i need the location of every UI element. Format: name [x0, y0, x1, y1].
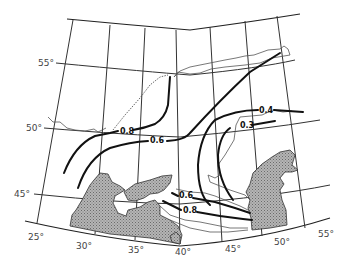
lon-label-35: 35° [128, 245, 144, 255]
isoline-0.3-b [252, 121, 275, 125]
isoline-label: 0.6 [179, 191, 194, 200]
map-canvas: 0.8 0.6 0.4 0.3 0.6 0.8 55° 50° 45° 25° … [0, 0, 348, 265]
lon-label-55: 55° [318, 229, 334, 239]
isoline-label: 0.8 [183, 206, 198, 215]
map-container: 0.8 0.6 0.4 0.3 0.6 0.8 55° 50° 45° 25° … [0, 0, 348, 265]
isoline-label: 0.6 [150, 136, 165, 145]
isoline-label: 0.3 [240, 121, 254, 130]
isoline-0.8-nw-b [133, 77, 170, 130]
isoline-0.6-s [172, 193, 178, 196]
lon-label-25: 25° [28, 232, 44, 242]
lon-label-45: 45° [225, 244, 241, 254]
lon-label-50: 50° [274, 237, 290, 247]
coast-caucasus-2 [170, 220, 248, 232]
lon-label-40: 40° [175, 247, 191, 257]
lat-label-45: 45° [14, 189, 30, 199]
isoline-0.8-s-b [197, 212, 252, 220]
map-top-edge [67, 14, 300, 30]
isoline-label: 0.4 [259, 106, 274, 115]
isoline-0.8-nw [64, 131, 118, 173]
caspian-sea [246, 150, 298, 230]
coastline-north [48, 117, 106, 132]
lon-label-30: 30° [76, 241, 92, 251]
lat-label-50: 50° [26, 123, 42, 133]
isoline-label: 0.8 [120, 127, 135, 136]
isoline-0.3 [218, 128, 233, 200]
isoline-0.8-s [163, 201, 181, 210]
coastline-volga-north [174, 46, 290, 77]
lat-label-55: 55° [38, 58, 54, 68]
isoline-0.4-b [274, 110, 303, 112]
sea-of-azov [124, 175, 172, 201]
